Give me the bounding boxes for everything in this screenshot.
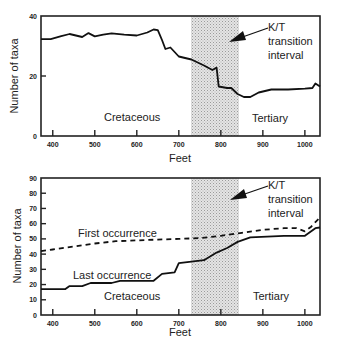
- svg-text:transition: transition: [268, 193, 313, 205]
- kt-callout-bottom: K/T transition interval: [230, 179, 313, 219]
- kt-shaded-interval: [191, 16, 239, 136]
- bottom-chart: 0102030405060708090 40050060070080090010…: [11, 175, 320, 339]
- y-tick-label: 40: [29, 251, 37, 258]
- x-tick-label: 900: [257, 141, 269, 148]
- bottom-y-axis: 0102030405060708090: [29, 175, 46, 319]
- label-last-occurrence: Last occurrence: [73, 269, 151, 281]
- y-tick-label: 10: [29, 296, 37, 303]
- y-tick-label: 0: [33, 312, 37, 319]
- svg-text:interval: interval: [268, 207, 303, 219]
- top-x-axis-title: Feet: [169, 152, 191, 164]
- bottom-x-axis-title: Feet: [169, 326, 191, 338]
- kt-callout: K/T transition interval: [229, 21, 313, 61]
- y-tick-label: 40: [29, 13, 37, 20]
- y-tick-label: 80: [29, 190, 37, 197]
- x-tick-label: 500: [89, 141, 101, 148]
- figure: 02040 4005006007008009001000 Number of t…: [0, 0, 338, 353]
- y-tick-label: 90: [29, 175, 37, 182]
- bottom-y-axis-title: Number of taxa: [11, 208, 23, 284]
- y-tick-label: 70: [29, 205, 37, 212]
- svg-text:K/T: K/T: [268, 21, 285, 33]
- y-tick-label: 20: [29, 281, 37, 288]
- x-tick-label: 800: [215, 320, 227, 327]
- x-tick-label: 800: [215, 141, 227, 148]
- x-tick-label: 900: [257, 320, 269, 327]
- y-tick-label: 30: [29, 266, 37, 273]
- x-tick-label: 700: [173, 141, 185, 148]
- x-tick-label: 400: [47, 141, 59, 148]
- kt-shaded-interval-bottom: [191, 178, 239, 315]
- x-tick-label: 400: [47, 320, 59, 327]
- x-tick-label: 1000: [297, 141, 313, 148]
- svg-text:transition: transition: [268, 35, 313, 47]
- y-tick-label: 50: [29, 235, 37, 242]
- y-tick-label: 0: [33, 133, 37, 140]
- x-tick-label: 600: [131, 320, 143, 327]
- top-x-axis: 4005006007008009001000: [47, 130, 313, 148]
- x-tick-label: 600: [131, 141, 143, 148]
- bottom-x-axis: 4005006007008009001000: [47, 309, 313, 327]
- top-y-axis: 02040: [29, 13, 46, 140]
- top-y-axis-title: Number of taxa: [8, 38, 20, 114]
- label-tertiary-bottom: Tertiary: [253, 290, 290, 302]
- label-cretaceous-bottom: Cretaceous: [104, 290, 161, 302]
- top-chart: 02040 4005006007008009001000 Number of t…: [8, 13, 320, 165]
- x-tick-label: 500: [89, 320, 101, 327]
- svg-text:interval: interval: [268, 49, 303, 61]
- y-tick-label: 20: [29, 73, 37, 80]
- label-tertiary: Tertiary: [252, 112, 289, 124]
- x-tick-label: 1000: [297, 320, 313, 327]
- label-cretaceous: Cretaceous: [104, 111, 161, 123]
- label-first-occurrence: First occurrence: [78, 227, 157, 239]
- y-tick-label: 60: [29, 220, 37, 227]
- svg-text:K/T: K/T: [268, 179, 285, 191]
